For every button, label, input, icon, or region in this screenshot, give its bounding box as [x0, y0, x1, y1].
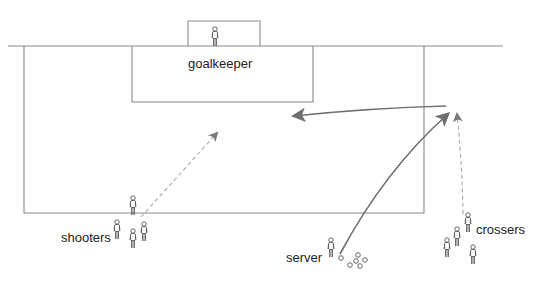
arrows: [141, 106, 463, 254]
crosser-run-arrow: [457, 114, 463, 214]
shooters-group: [114, 196, 147, 248]
penalty-box: [132, 46, 313, 102]
ball-icon: [363, 258, 368, 263]
ball-icon: [358, 264, 363, 269]
balls: [339, 253, 368, 269]
cross-arrow: [294, 106, 446, 116]
goal-frame: [188, 21, 260, 46]
server-pass-arrow: [340, 114, 448, 254]
field: [8, 21, 503, 213]
shooter-run-arrow: [141, 133, 217, 217]
server-player: [328, 238, 334, 257]
shooters-label: shooters: [61, 230, 111, 245]
crossers-group: [444, 213, 476, 264]
ball-icon: [348, 263, 353, 268]
ball-icon: [356, 253, 361, 258]
goalkeeper-player: [212, 27, 218, 46]
ball-icon: [354, 259, 359, 264]
goalkeeper-label: goalkeeper: [188, 56, 252, 71]
crossers-label: crossers: [476, 222, 525, 237]
drill-area-outline: [24, 46, 424, 213]
ball-icon: [339, 256, 344, 261]
server-label: server: [286, 250, 322, 265]
